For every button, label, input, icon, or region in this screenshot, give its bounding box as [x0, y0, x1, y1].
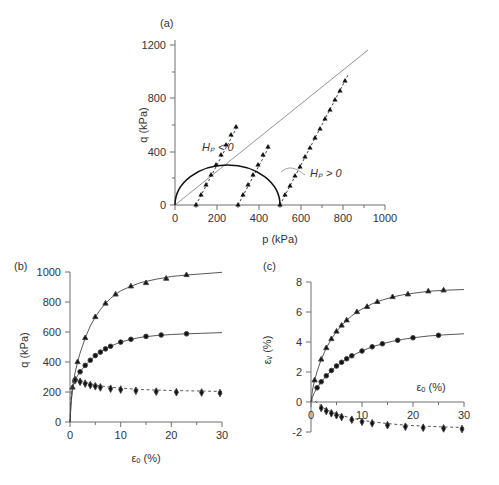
yield-surface-curve — [175, 165, 280, 205]
panel-c-xtick-0: 0 — [308, 409, 314, 421]
q-high-confining-markers — [70, 272, 189, 389]
ev-high-confining-markers — [312, 287, 446, 382]
panel-b-xtick-3: 30 — [216, 429, 228, 441]
panel-b-xtick-2: 20 — [165, 429, 177, 441]
panel-b-ytick-1: 200 — [43, 386, 61, 398]
panel-c-tag: (c) — [263, 260, 276, 272]
panel-b-curves — [70, 272, 222, 422]
hp-negative-annotation: Hₚ < 0 — [202, 141, 234, 153]
panel-c-ylabel: εᵥ (%) — [261, 336, 273, 365]
panel-c-xtick-3: 30 — [458, 409, 470, 421]
panel-c-axes — [306, 282, 464, 432]
panel-b-xlabel: εₒ (%) — [131, 452, 160, 464]
critical-state-line — [175, 50, 368, 205]
panel-c-ytick-3: 4 — [296, 336, 302, 348]
panel-a: (a) — [0, 0, 499, 250]
q-high-confining-curve — [70, 272, 222, 422]
panel-b-ytick-3: 600 — [43, 326, 61, 338]
q-softening-markers — [73, 376, 222, 397]
panel-a-svg: (a) — [0, 0, 499, 250]
stress-path-p300-markers — [235, 144, 270, 207]
q-medium-confining-curve — [70, 333, 222, 422]
panel-a-ytick-3: 1200 — [142, 39, 166, 51]
panel-c-svg: (c) 0 10 20 30 -2 0 — [249, 250, 499, 485]
panel-a-xtick-0: 0 — [172, 212, 178, 224]
stress-path-p500-markers — [277, 78, 347, 207]
panel-b-axes — [65, 272, 222, 427]
panel-c-ytick-2: 2 — [296, 366, 302, 378]
panel-a-axes — [170, 40, 385, 210]
panel-a-ylabel: q (kPa) — [137, 107, 149, 142]
panel-c-ytick-4: 6 — [296, 306, 302, 318]
q-medium-confining-markers — [73, 332, 189, 383]
panel-b-ytick-5: 1000 — [37, 266, 61, 278]
hp-positive-annotation: Hₚ > 0 — [310, 167, 342, 179]
panel-a-xtick-4: 800 — [334, 212, 352, 224]
panel-b-x-ticklabels: 0 10 20 30 — [67, 429, 228, 441]
panel-c-xtick-2: 20 — [407, 409, 419, 421]
panel-c-curves — [311, 287, 464, 433]
panel-c-xlabel: εₒ (%) — [416, 381, 445, 393]
panel-b-svg: (b) 0 10 20 30 0 200 — [0, 250, 250, 485]
panel-b-ytick-2: 400 — [43, 356, 61, 368]
panel-a-ytick-1: 400 — [148, 146, 166, 158]
panel-a-xlabel: p (kPa) — [262, 233, 297, 245]
panel-b-xtick-1: 10 — [115, 429, 127, 441]
panel-a-xtick-1: 200 — [208, 212, 226, 224]
stress-path-p300 — [235, 144, 270, 207]
panel-b-ytick-4: 800 — [43, 296, 61, 308]
panel-c: (c) 0 10 20 30 -2 0 — [249, 250, 499, 485]
panel-b-ylabel: q (kPa) — [18, 332, 30, 367]
panel-c-ytick-0: -2 — [292, 426, 302, 438]
panel-b-tag: (b) — [14, 260, 27, 272]
panel-a-ytick-2: 800 — [148, 92, 166, 104]
panel-c-ytick-5: 8 — [296, 276, 302, 288]
panel-b-y-ticklabels: 0 200 400 600 800 1000 — [37, 266, 61, 428]
panel-a-tag: (a) — [160, 17, 173, 29]
panel-b-xtick-0: 0 — [67, 429, 73, 441]
panel-a-x-ticklabels: 0 200 400 600 800 1000 — [172, 212, 397, 224]
panel-a-ytick-0: 0 — [160, 199, 166, 211]
panel-a-xtick-3: 600 — [292, 212, 310, 224]
panel-a-xtick-5: 1000 — [373, 212, 397, 224]
hp-positive-leader — [281, 168, 305, 175]
panel-c-ytick-1: 0 — [296, 396, 302, 408]
ev-dilatant-markers — [319, 404, 464, 433]
panel-a-tag-group: (a) — [160, 17, 173, 29]
panel-b: (b) 0 10 20 30 0 200 — [0, 250, 250, 485]
panel-c-y-ticklabels: -2 0 2 4 6 8 — [292, 276, 302, 438]
panel-a-xtick-2: 400 — [250, 212, 268, 224]
panel-b-ytick-0: 0 — [55, 416, 61, 428]
